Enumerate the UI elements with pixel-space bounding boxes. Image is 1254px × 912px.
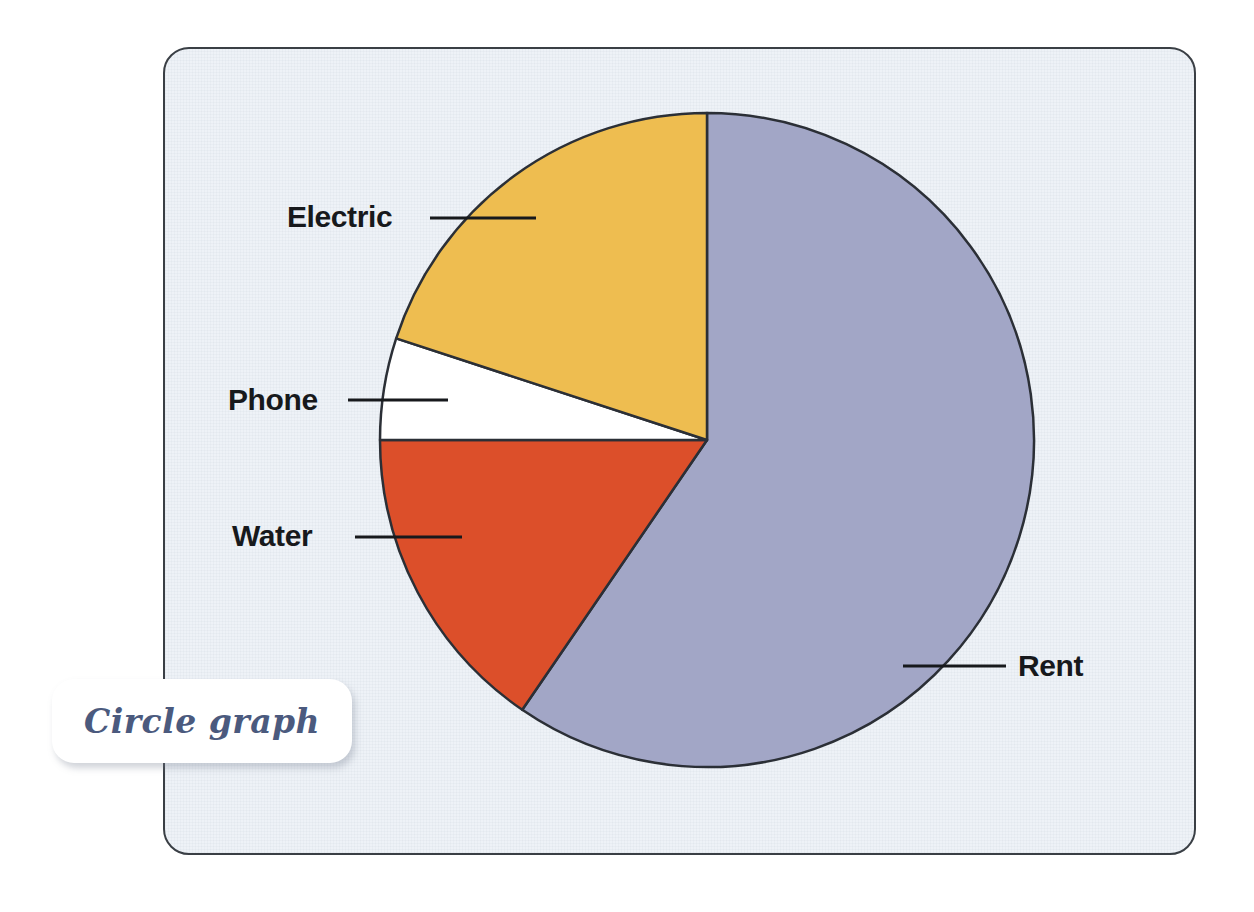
caption-tab: Circle graph	[52, 679, 352, 763]
caption-label: Circle graph	[84, 702, 320, 741]
pie-chart	[0, 0, 1254, 912]
pie-label-rent: Rent	[1018, 651, 1083, 681]
pie-slice-group	[380, 113, 1034, 767]
pie-label-water: Water	[232, 521, 312, 551]
pie-label-electric: Electric	[287, 202, 392, 232]
pie-label-phone: Phone	[228, 385, 318, 415]
